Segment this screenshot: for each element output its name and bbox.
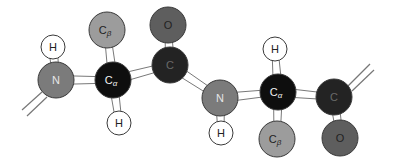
atom-label: H xyxy=(49,41,57,53)
atom-subscript: β xyxy=(106,29,112,38)
atom-subscript: β xyxy=(276,138,282,147)
atom-oxygen: O xyxy=(322,120,358,156)
atom-hydrogen: H xyxy=(107,111,131,135)
atom-label: H xyxy=(271,43,279,55)
atom-c-beta: Cβ xyxy=(89,12,125,48)
atom-label: H xyxy=(217,127,225,139)
stub-bond-down-left xyxy=(22,92,47,116)
bonds xyxy=(49,25,343,139)
atom-c-alpha: Cα xyxy=(95,62,131,98)
atom-carbonyl-carbon: C xyxy=(316,79,352,115)
atom-hydrogen: H xyxy=(263,37,287,61)
atom-oxygen: O xyxy=(150,7,186,43)
peptide-backbone-diagram: HNCβCαHOCNHHCαCβCO xyxy=(0,0,395,168)
atom-label: H xyxy=(115,117,123,129)
atom-subscript: α xyxy=(278,91,283,100)
atom-nitrogen: N xyxy=(202,80,238,116)
atom-hydrogen: H xyxy=(41,35,65,59)
atom-label: N xyxy=(216,92,224,104)
stub-bond-up-right xyxy=(348,64,374,91)
atom-label: O xyxy=(336,132,345,144)
atom-c-beta: Cβ xyxy=(259,121,295,157)
atom-c-alpha: Cα xyxy=(260,74,296,110)
atom-label: O xyxy=(164,19,173,31)
atom-label: N xyxy=(52,74,60,86)
atom-label: C xyxy=(330,91,338,103)
atom-subscript: α xyxy=(113,79,118,88)
atom-hydrogen: H xyxy=(209,121,233,145)
atom-nitrogen: N xyxy=(38,62,74,98)
atom-label: C xyxy=(166,59,174,71)
atom-carbonyl-carbon: C xyxy=(152,47,188,83)
